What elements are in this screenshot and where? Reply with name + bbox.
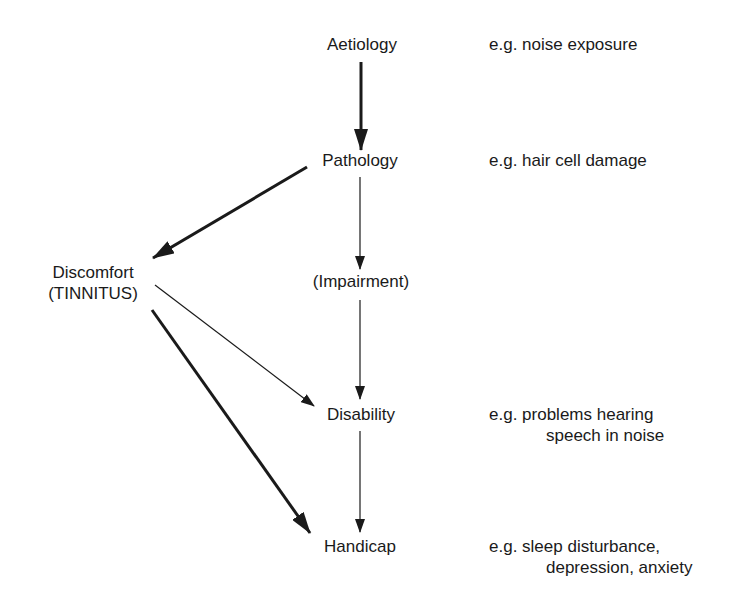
arrow-pathology-discomfort [153, 167, 307, 258]
discomfort-label: Discomfort [48, 262, 138, 283]
example-aetiology: e.g. noise exposure [489, 34, 637, 55]
node-pathology: Pathology [322, 150, 398, 171]
node-handicap: Handicap [324, 536, 396, 557]
example-pathology: e.g. hair cell damage [489, 150, 647, 171]
example-handicap: e.g. sleep disturbance, depression, anxi… [489, 536, 692, 578]
node-impairment: (Impairment) [313, 271, 409, 292]
node-aetiology: Aetiology [327, 34, 397, 55]
example-disability-line1: e.g. problems hearing [489, 404, 664, 425]
tinnitus-label: (TINNITUS) [48, 283, 138, 304]
example-disability: e.g. problems hearing speech in noise [489, 404, 664, 446]
example-handicap-line2: depression, anxiety [489, 557, 692, 578]
node-discomfort: Discomfort (TINNITUS) [48, 262, 138, 304]
example-disability-line2: speech in noise [489, 425, 664, 446]
node-disability: Disability [327, 404, 395, 425]
example-handicap-line1: e.g. sleep disturbance, [489, 536, 692, 557]
